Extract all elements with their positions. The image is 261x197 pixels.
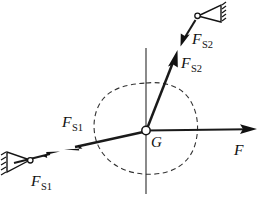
vector-F-shaft [146,129,248,130]
support-lower-left-pin [28,158,33,163]
label-force-F-S1-outer-main: F [30,172,41,189]
vector-F-S2-inner-shaft [147,61,174,130]
label-force-F-S2-outer-sub: S2 [202,39,213,50]
label-force-F-S2-inner: F S2 [180,54,202,74]
support-upper-right-pin [195,13,200,18]
support-lower-left-hatching [1,152,6,175]
label-center-of-gravity: G [151,134,162,150]
free-body-diagram: G F F S2 F S2 F S1 F S1 [0,0,261,197]
center-of-gravity-node [142,126,150,134]
support-upper-right-triangle [198,5,221,22]
vector-F [146,124,257,134]
label-force-F-S2-inner-main: F [180,54,191,71]
label-force-F-S1-inner-sub: S1 [72,122,83,133]
vector-F-S1-inner-shaft [75,132,146,148]
label-force-F-S1-outer-sub: S1 [41,181,52,192]
label-force-F-S2-outer: F S2 [191,30,213,50]
label-force-F-S1-outer: F S1 [30,172,52,192]
vector-F-S1-inner [64,132,146,151]
vector-F-S2-inner [147,50,178,130]
label-force-F-S1-inner: F S1 [61,113,83,133]
label-force-F: F [233,141,244,158]
label-force-F-S1-inner-main: F [61,113,72,130]
label-force-F-S2-inner-sub: S2 [191,63,202,74]
support-upper-right [195,2,226,22]
support-lower-left [1,152,33,175]
diagram-canvas: G F F S2 F S2 F S1 F S1 [0,0,261,197]
support-upper-right-hatching [222,2,226,21]
label-force-F-S2-outer-main: F [191,30,202,47]
